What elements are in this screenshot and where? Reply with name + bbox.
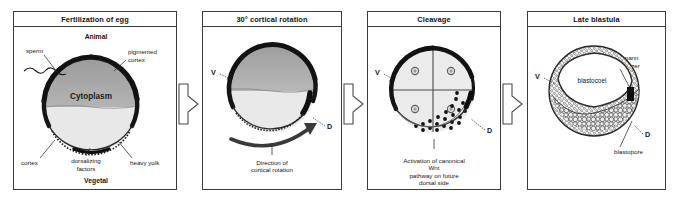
panel-header-cortical-rotation: 30° cortical rotation bbox=[202, 11, 342, 27]
panel-body-fertilization: Animal Vegetal sperm pigmented cortex co… bbox=[13, 27, 177, 190]
panel-header-cleavage: Cleavage bbox=[367, 11, 501, 27]
panel-cortical-rotation[interactable]: 30° cortical rotation V D Direction of c… bbox=[202, 11, 342, 190]
arrow-rotation-to-cleavage bbox=[343, 83, 365, 125]
panel-header-fertilization: Fertilization of egg bbox=[13, 11, 177, 27]
panel-title: 30° cortical rotation bbox=[236, 15, 307, 24]
panel-title: Cleavage bbox=[417, 15, 450, 24]
panel-body-cortical-rotation: V D Direction of cortical rotation bbox=[202, 27, 342, 190]
embryo-diagram-cleavage bbox=[368, 27, 500, 167]
right-arrow-icon bbox=[178, 83, 200, 125]
egg-diagram-fertilization: Cytoplasm bbox=[14, 27, 176, 189]
right-arrow-icon bbox=[343, 83, 365, 125]
label-cytoplasm: Cytoplasm bbox=[70, 92, 112, 101]
arrow-fertilization-to-rotation bbox=[178, 83, 200, 125]
caption-line-2: pathway on future dorsal side bbox=[401, 172, 467, 187]
panel-header-late-blastula: Late blastula bbox=[527, 11, 666, 27]
arrow-cleavage-to-blastula bbox=[502, 83, 524, 125]
panel-cleavage[interactable]: Cleavage V D Activation of canonical Wnt… bbox=[367, 11, 501, 190]
panel-body-late-blastula: V D Spemann organizer blastopore bbox=[527, 27, 666, 190]
right-arrow-icon bbox=[502, 83, 524, 125]
panel-title: Fertilization of egg bbox=[61, 15, 129, 24]
egg-diagram-rotation bbox=[203, 27, 341, 167]
label-blastocoel: blastocoel bbox=[578, 77, 607, 84]
panel-fertilization[interactable]: Fertilization of egg Animal Vegetal sper… bbox=[13, 11, 177, 190]
panel-title: Late blastula bbox=[573, 15, 619, 24]
panel-body-cleavage: V D Activation of canonical Wnt pathway … bbox=[367, 27, 501, 190]
embryo-diagram-late-blastula: blastocoel bbox=[528, 27, 665, 167]
developmental-stages-figure: Fertilization of egg Animal Vegetal sper… bbox=[0, 0, 679, 208]
caption-line-2: cortical rotation bbox=[251, 166, 293, 173]
panel-late-blastula[interactable]: Late blastula V D Spemann organizer blas… bbox=[527, 11, 666, 190]
